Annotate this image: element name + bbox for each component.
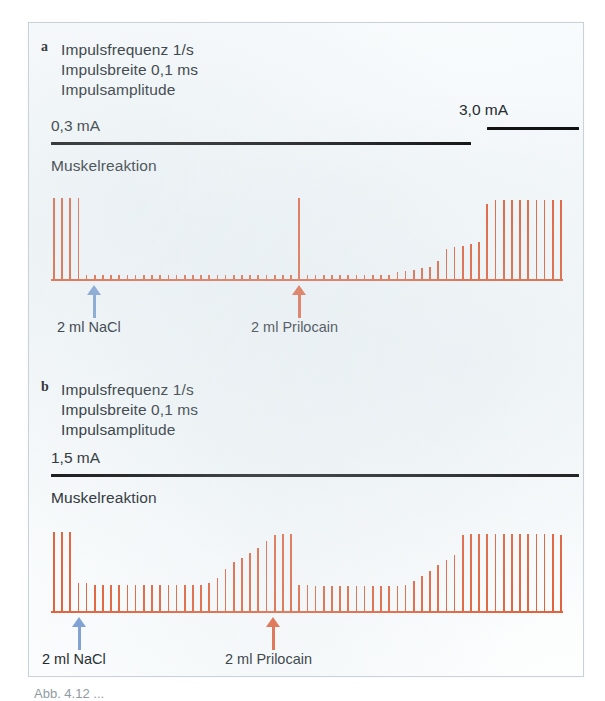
panel-a-stim-line-1: Impulsfrequenz 1/s bbox=[61, 40, 194, 59]
panel-a-stimulus-bar-low bbox=[51, 142, 471, 145]
spike bbox=[257, 275, 259, 279]
spike bbox=[470, 244, 472, 279]
panel-b-trace bbox=[51, 523, 563, 613]
spike bbox=[511, 534, 513, 611]
spike bbox=[552, 534, 554, 611]
spike bbox=[159, 275, 161, 279]
panel-a-letter: a bbox=[41, 39, 48, 55]
spike bbox=[102, 585, 104, 611]
panel-a-marker-prilocain-label: 2 ml Prilocain bbox=[251, 319, 338, 335]
spike bbox=[53, 532, 55, 611]
spike bbox=[380, 275, 382, 279]
spike bbox=[437, 261, 439, 279]
spike bbox=[454, 555, 456, 611]
figure-caption: Abb. 4.12 ... bbox=[34, 686, 594, 700]
spike bbox=[536, 534, 538, 611]
panel-a-marker-nacl-label: 2 ml NaCl bbox=[57, 319, 121, 335]
panel-b-marker-nacl-label: 2 ml NaCl bbox=[42, 651, 106, 667]
spike bbox=[323, 275, 325, 279]
spike bbox=[372, 586, 374, 611]
spike bbox=[536, 200, 538, 279]
spike bbox=[184, 275, 186, 279]
spike bbox=[462, 246, 464, 279]
panel-b-marker-prilocain-label: 2 ml Prilocain bbox=[225, 651, 312, 667]
spike bbox=[347, 275, 349, 279]
spike bbox=[110, 275, 112, 279]
spike bbox=[282, 275, 284, 279]
spike bbox=[151, 275, 153, 279]
spike bbox=[331, 586, 333, 611]
spike bbox=[339, 586, 341, 611]
spike bbox=[421, 576, 423, 611]
spike bbox=[257, 548, 259, 611]
panel-a-amplitude-left: 0,3 mA bbox=[51, 117, 100, 135]
spike bbox=[527, 534, 529, 611]
spike bbox=[315, 275, 317, 279]
spike bbox=[388, 586, 390, 611]
spike bbox=[127, 275, 129, 279]
spike bbox=[486, 534, 488, 611]
spike bbox=[323, 586, 325, 611]
spike bbox=[364, 586, 366, 611]
spike bbox=[233, 275, 235, 279]
panel-b-stimulus-bar bbox=[51, 474, 579, 477]
spike bbox=[217, 275, 219, 279]
panel-b-stim-line-1: Impulsfrequenz 1/s bbox=[61, 380, 194, 399]
panel-b-amplitude-left: 1,5 mA bbox=[51, 449, 100, 467]
spike bbox=[249, 275, 251, 279]
spike bbox=[413, 581, 415, 611]
spike bbox=[307, 275, 309, 279]
spike bbox=[151, 585, 153, 611]
spike bbox=[405, 271, 407, 279]
spike bbox=[339, 275, 341, 279]
spike bbox=[511, 200, 513, 279]
spike bbox=[503, 200, 505, 279]
spike bbox=[446, 249, 448, 279]
spike bbox=[184, 585, 186, 611]
spike bbox=[200, 275, 202, 279]
spike bbox=[290, 275, 292, 279]
spike bbox=[225, 275, 227, 279]
spike bbox=[69, 532, 71, 611]
spike bbox=[397, 586, 399, 611]
spike bbox=[217, 578, 219, 611]
spike bbox=[61, 532, 63, 611]
spike bbox=[495, 534, 497, 611]
spike bbox=[495, 200, 497, 279]
spike bbox=[397, 272, 399, 279]
spike bbox=[266, 275, 268, 279]
spike bbox=[127, 585, 129, 611]
spike bbox=[356, 275, 358, 279]
spike bbox=[94, 275, 96, 279]
panel-a-baseline bbox=[51, 279, 563, 281]
panel-a-amplitude-right: 3,0 mA bbox=[459, 101, 508, 119]
spike bbox=[69, 198, 71, 279]
panel-b-stim-line-3: Impulsamplitude bbox=[61, 420, 175, 439]
spike bbox=[307, 585, 309, 611]
panel-a-response-label: Muskelreaktion bbox=[51, 157, 157, 175]
spike bbox=[519, 534, 521, 611]
spike bbox=[110, 585, 112, 611]
spike bbox=[61, 198, 63, 279]
spike bbox=[53, 198, 55, 279]
panel-b-letter: b bbox=[41, 379, 49, 395]
spike bbox=[159, 585, 161, 611]
spike bbox=[282, 534, 284, 611]
spike bbox=[192, 275, 194, 279]
spike bbox=[527, 200, 529, 279]
spike bbox=[86, 275, 88, 279]
spike bbox=[478, 534, 480, 611]
spike bbox=[331, 275, 333, 279]
spike bbox=[388, 275, 390, 279]
spike bbox=[429, 571, 431, 611]
spike bbox=[241, 275, 243, 279]
panel-b-response-label: Muskelreaktion bbox=[51, 489, 157, 507]
spike bbox=[544, 200, 546, 279]
spike bbox=[94, 585, 96, 611]
spike bbox=[560, 535, 562, 611]
panel-b-baseline bbox=[51, 611, 563, 613]
spike bbox=[192, 585, 194, 611]
spike bbox=[478, 242, 480, 279]
spike bbox=[560, 200, 562, 279]
figure-root: a Impulsfrequenz 1/s Impulsbreite 0,1 ms… bbox=[0, 0, 605, 701]
